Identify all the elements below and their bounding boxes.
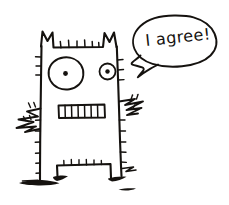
right-hand-stroke [122, 167, 136, 172]
doodle-canvas: I agree! [0, 0, 229, 205]
ground-shadow [19, 167, 136, 190]
speech-bubble-tail [132, 56, 158, 78]
right-arm [119, 95, 143, 116]
mouth-teeth-lines [65, 105, 98, 118]
ground-line-left [23, 180, 39, 181]
monster-doodle-illustration: I agree! [0, 0, 229, 205]
left-eye-pupil [63, 71, 68, 76]
right-arm-zigzag [119, 99, 143, 115]
legs [57, 160, 111, 179]
right-eye [100, 64, 116, 80]
left-arm [17, 103, 41, 133]
body-right-edge [117, 47, 122, 177]
right-ground-dash [119, 188, 137, 190]
head-top-with-ears [41, 32, 117, 48]
left-eye [49, 57, 84, 89]
speech-bubble-text: I agree! [144, 24, 211, 50]
character-body [17, 32, 144, 191]
mouth [59, 105, 106, 119]
speech-bubble: I agree! [132, 15, 217, 77]
left-leg-smudge [53, 176, 68, 181]
right-eye-pupil [105, 69, 109, 73]
